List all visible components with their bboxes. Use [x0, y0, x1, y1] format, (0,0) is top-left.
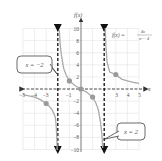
x-tick-neg4: −4	[31, 92, 37, 98]
y-tick-neg2: −2	[73, 98, 79, 104]
y-axis-label: f(x)	[74, 12, 82, 19]
y-tick-neg10: −10	[70, 147, 79, 153]
y-tick-neg4: −4	[73, 110, 79, 116]
y-tick-10: 10	[74, 26, 80, 32]
callout-x-2-text: x = 2	[123, 128, 139, 135]
point-neg3	[44, 101, 49, 106]
x-tick-neg3: −3	[43, 92, 49, 98]
point-neg1	[67, 78, 72, 83]
point-origin	[78, 86, 83, 91]
function-label: f(x) = 4x x² − 4	[112, 29, 152, 41]
y-tick-neg6: −6	[73, 122, 79, 128]
left-branch	[23, 95, 57, 150]
y-tick-6: 6	[76, 50, 79, 56]
y-tick-8: 8	[76, 38, 79, 44]
x-tick-3: 3	[115, 92, 118, 98]
x-axis-label: x	[147, 86, 151, 92]
x-tick-neg5: −5	[19, 92, 25, 98]
function-denominator: x² − 4	[138, 36, 149, 41]
point-1	[90, 95, 95, 100]
x-tick-neg1: −1	[66, 92, 72, 98]
y-tick-2: 2	[76, 74, 79, 80]
y-tick-neg8: −8	[73, 134, 79, 140]
rational-function-graph: f(x) 10 8 6 4 2 −2 −4 −6 −8 −10 −5 −4 −3…	[0, 0, 162, 161]
function-lhs: f(x) =	[112, 32, 125, 39]
point-3	[113, 72, 118, 77]
callout-x-neg2: x = −2	[17, 56, 57, 74]
y-tick-4: 4	[76, 62, 79, 68]
function-numerator: 4x	[141, 29, 145, 34]
callout-x-neg2-text: x = −2	[24, 61, 44, 68]
x-tick-4: 4	[127, 92, 130, 98]
x-tick-5: 5	[138, 92, 141, 98]
